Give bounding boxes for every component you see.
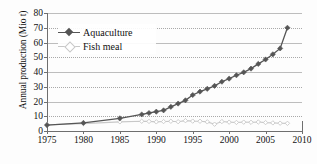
x-tick-mark bbox=[83, 131, 84, 134]
data-point bbox=[234, 73, 239, 78]
x-tick-label: 2010 bbox=[293, 135, 312, 145]
x-tick-mark bbox=[302, 131, 303, 134]
data-point bbox=[220, 119, 224, 123]
data-point bbox=[176, 101, 181, 106]
x-tick-label: 1975 bbox=[38, 135, 57, 145]
data-point bbox=[241, 70, 246, 75]
legend-item-fish-meal[interactable]: Fish meal bbox=[58, 39, 156, 53]
y-tick-label: 70 bbox=[34, 23, 44, 33]
data-point bbox=[219, 79, 224, 84]
data-point bbox=[242, 120, 246, 124]
data-point bbox=[81, 120, 86, 125]
x-tick-mark bbox=[47, 131, 48, 134]
x-tick-mark bbox=[266, 131, 267, 134]
data-point bbox=[198, 119, 202, 123]
data-point bbox=[191, 119, 195, 123]
y-tick-label: 60 bbox=[34, 38, 44, 48]
x-tick-label: 1990 bbox=[147, 135, 166, 145]
x-tick-mark bbox=[229, 131, 230, 134]
y-axis-label: Annual production (Mio t) bbox=[18, 0, 28, 130]
data-point bbox=[161, 119, 165, 123]
legend-label-aquaculture: Aquaculture bbox=[83, 27, 132, 38]
y-tick-label: 20 bbox=[34, 97, 44, 107]
data-point bbox=[197, 89, 202, 94]
data-point bbox=[140, 119, 144, 123]
legend-marker-fish-meal bbox=[58, 40, 80, 52]
y-tick-label: 80 bbox=[34, 8, 44, 18]
x-tick-label: 1995 bbox=[183, 135, 202, 145]
data-point bbox=[161, 108, 166, 113]
data-point bbox=[263, 120, 267, 124]
data-point bbox=[234, 120, 238, 124]
data-point bbox=[249, 120, 253, 124]
data-point bbox=[285, 121, 289, 125]
data-point bbox=[147, 119, 151, 123]
x-tick-mark bbox=[156, 131, 157, 134]
legend-item-aquaculture[interactable]: Aquaculture bbox=[58, 25, 156, 39]
data-point bbox=[278, 121, 282, 125]
x-tick-label: 1985 bbox=[110, 135, 129, 145]
data-point bbox=[176, 120, 180, 124]
data-point bbox=[168, 104, 173, 109]
legend: Aquaculture Fish meal bbox=[58, 24, 156, 54]
x-tick-mark bbox=[193, 131, 194, 134]
data-point bbox=[44, 123, 49, 128]
data-point bbox=[154, 120, 158, 124]
x-tick-label: 2005 bbox=[256, 135, 275, 145]
data-point bbox=[139, 112, 144, 117]
x-axis-line bbox=[47, 131, 302, 132]
x-tick-label: 2000 bbox=[220, 135, 239, 145]
data-point bbox=[117, 116, 122, 121]
x-tick-mark bbox=[120, 131, 121, 134]
data-point bbox=[212, 122, 216, 126]
y-tick-label: 30 bbox=[34, 82, 44, 92]
chart-figure: Annual production (Mio t) 01020304050607… bbox=[0, 0, 317, 164]
data-point bbox=[183, 118, 187, 122]
data-point bbox=[212, 83, 217, 88]
data-point bbox=[169, 119, 173, 123]
data-point bbox=[227, 76, 232, 81]
right-axis-tick bbox=[302, 121, 303, 131]
data-point bbox=[256, 120, 260, 124]
y-tick-label: 40 bbox=[34, 67, 44, 77]
data-point bbox=[205, 120, 209, 124]
data-point bbox=[205, 86, 210, 91]
data-point bbox=[285, 25, 290, 30]
data-point bbox=[227, 120, 231, 124]
data-point bbox=[271, 121, 275, 125]
data-point bbox=[146, 110, 151, 115]
x-tick-label: 1980 bbox=[74, 135, 93, 145]
y-tick-label: 10 bbox=[34, 111, 44, 121]
legend-marker-aquaculture bbox=[58, 26, 80, 38]
y-tick-label: 50 bbox=[34, 52, 44, 62]
data-point bbox=[154, 109, 159, 114]
legend-label-fish-meal: Fish meal bbox=[83, 41, 122, 52]
